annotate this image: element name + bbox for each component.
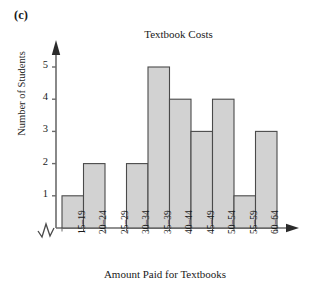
figure-panel: (c) Textbook Costs Number of Students Am… <box>0 0 319 288</box>
x-tick-label: 40–44 <box>184 210 194 234</box>
y-tick-label: 3 <box>32 123 48 134</box>
x-tick-label: 15–19 <box>77 210 87 234</box>
x-tick-label: 60–64 <box>270 210 280 234</box>
histogram-plot <box>0 0 319 288</box>
x-tick-label: 55–59 <box>249 210 259 234</box>
y-tick-label: 5 <box>32 59 48 70</box>
y-tick-label: 1 <box>32 188 48 199</box>
x-tick-label: 30–34 <box>141 210 151 234</box>
x-tick-label: 20–24 <box>98 210 108 234</box>
y-tick-label: 4 <box>32 91 48 102</box>
x-tick-label: 25–29 <box>120 210 130 234</box>
x-tick-label: 45–49 <box>206 210 216 234</box>
x-tick-label: 35–39 <box>163 210 173 234</box>
y-tick-label: 2 <box>32 156 48 167</box>
x-tick-label: 50–54 <box>227 210 237 234</box>
